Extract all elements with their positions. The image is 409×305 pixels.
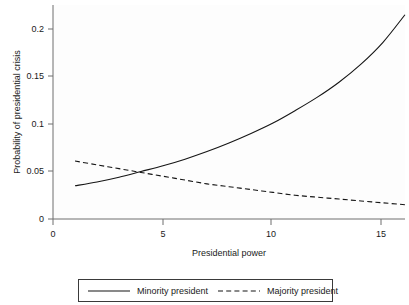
y-tick-label-0.1: 0.1 [31, 119, 44, 129]
legend: Minority president Majority president [79, 280, 339, 302]
y-tick-label-0: 0 [39, 214, 44, 224]
legend-label-majority-president: Majority president [267, 286, 339, 296]
x-tick-label-10: 10 [266, 229, 276, 239]
chart-container: 0.2 0.15 0.1 0.05 0 0 5 10 15 Probabilit… [0, 0, 409, 305]
x-tick-label-15: 15 [376, 229, 386, 239]
y-tick-label-0.05: 0.05 [26, 166, 44, 176]
y-tick-label-0.15: 0.15 [26, 71, 44, 81]
x-tick-label-5: 5 [160, 229, 165, 239]
x-axis-ticks: 0 5 10 15 [50, 219, 386, 239]
x-tick-label-0: 0 [50, 229, 55, 239]
y-axis-title: Probability of presidential crisis [12, 50, 22, 174]
chart-svg: 0.2 0.15 0.1 0.05 0 0 5 10 15 Probabilit… [0, 0, 409, 305]
x-axis-title: Presidential power [192, 248, 266, 258]
y-tick-label-0.2: 0.2 [31, 24, 44, 34]
legend-label-minority-president: Minority president [137, 286, 209, 296]
y-axis-ticks: 0.2 0.15 0.1 0.05 0 [26, 24, 53, 224]
